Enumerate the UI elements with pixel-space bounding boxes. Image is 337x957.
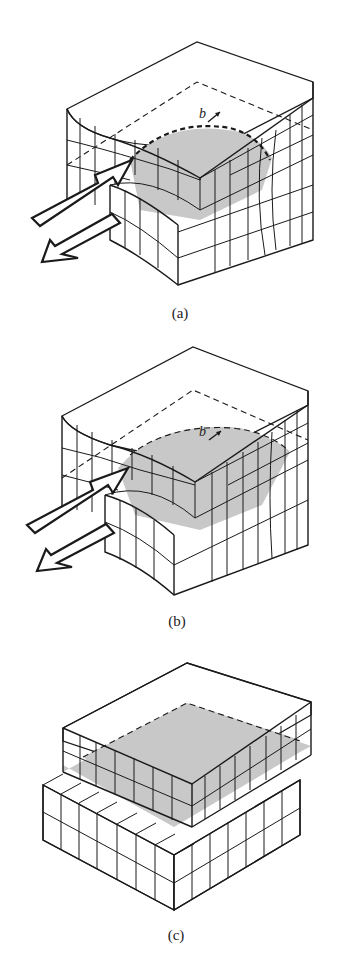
shear-arrow-in-a — [32, 160, 132, 226]
caption-c: (c) — [168, 927, 185, 944]
shear-arrow-out-b — [37, 524, 114, 571]
panel-a: b (a) — [32, 42, 313, 322]
shear-arrow-out-a — [42, 214, 120, 262]
burgers-label-a: b — [199, 106, 206, 121]
panel-c: (c) — [43, 663, 311, 944]
caption-b: (b) — [168, 613, 186, 630]
figure-canvas: b (a) — [0, 0, 337, 957]
burgers-label-b: b — [199, 424, 206, 439]
caption-a: (a) — [172, 305, 189, 322]
panel-b: b (b) — [27, 347, 308, 630]
